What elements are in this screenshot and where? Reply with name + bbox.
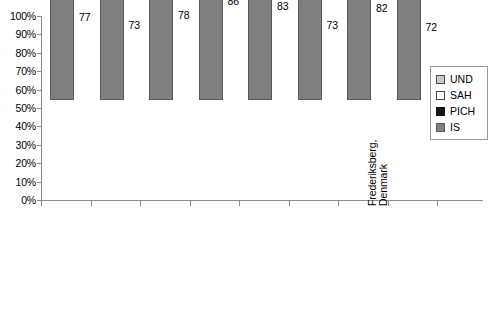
x-tick-mark [239, 201, 240, 206]
y-tick-mark [37, 163, 42, 164]
x-tick-mark [437, 201, 438, 206]
y-tick-mark [37, 34, 42, 35]
legend-label-und: UND [450, 74, 473, 84]
legend-item-is: IS [436, 119, 487, 135]
y-tick-mark [37, 71, 42, 72]
legend-item-und: UND [436, 71, 487, 87]
bar-segment-is: 82 [347, 0, 371, 100]
bar-segment-is: 83 [248, 0, 272, 100]
bar-column: 251083 [248, 0, 272, 100]
bar-value-label-is: 72 [426, 22, 438, 32]
y-tick-mark [37, 108, 42, 109]
bar-segment-is: 86 [199, 0, 223, 100]
bar-column: 1251073 [100, 0, 124, 100]
bar-column: 5986 [199, 0, 223, 100]
bar-column: 91882 [347, 0, 371, 100]
y-tick-mark [37, 182, 42, 183]
legend-swatch-und-icon [436, 75, 445, 84]
legend-item-sah: SAH [436, 87, 487, 103]
legend-swatch-is-icon [436, 123, 445, 132]
bar-value-label-is: 73 [129, 20, 141, 30]
bar-segment-is: 72 [397, 0, 421, 100]
bar-column: 931573 [298, 0, 322, 100]
bar-segment-is: 73 [298, 0, 322, 100]
bar-value-label-is: 77 [79, 12, 91, 22]
x-tick-mark [41, 201, 42, 206]
stacked-bar-chart: 100%90%80%70%60%50%40%30%20%10%0% 102117… [0, 0, 494, 331]
y-tick-mark [37, 145, 42, 146]
y-tick-mark [37, 90, 42, 91]
legend-label-sah: SAH [450, 90, 472, 100]
x-axis-label: Frederiksberg,Denmark [367, 140, 389, 206]
bar-value-label-is: 86 [228, 0, 240, 6]
legend-swatch-pich-icon [436, 107, 445, 116]
plot-area: 1021177125107365117859862510839315739188… [0, 0, 494, 231]
bar-segment-is: 73 [100, 0, 124, 100]
bar-value-label-is: 73 [327, 20, 339, 30]
bar-column: 651178 [149, 0, 173, 100]
x-tick-mark [190, 201, 191, 206]
y-tick-mark [37, 126, 42, 127]
legend-swatch-sah-icon [436, 91, 445, 100]
y-tick-mark [37, 16, 42, 17]
bar-segment-is: 78 [149, 0, 173, 100]
x-tick-mark [388, 201, 389, 206]
x-tick-mark [140, 201, 141, 206]
legend-label-is: IS [450, 122, 460, 132]
bar-value-label-is: 82 [376, 3, 388, 13]
x-axis-label-line2: Denmark [378, 140, 389, 206]
y-tick-mark [37, 53, 42, 54]
x-axis-labels: Frederiksberg,Denmark [0, 203, 494, 313]
bar-value-label-is: 78 [178, 10, 190, 20]
legend-item-pich: PICH [436, 103, 487, 119]
x-tick-mark [289, 201, 290, 206]
x-tick-mark [91, 201, 92, 206]
x-tick-mark [338, 201, 339, 206]
legend-label-pich: PICH [450, 106, 475, 116]
bar-value-label-is: 83 [277, 1, 289, 11]
bar-column: 1521072 [397, 0, 421, 100]
chart-legend: UND SAH PICH IS [430, 66, 488, 140]
bar-column: 1021177 [50, 0, 74, 100]
figure-caption [8, 319, 338, 329]
bar-segment-is: 77 [50, 0, 74, 100]
